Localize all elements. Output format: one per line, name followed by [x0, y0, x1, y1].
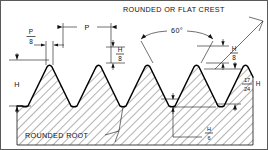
crest-note-label: ROUNDED OR FLAT CREST [123, 5, 225, 14]
seventeen-twentyfourths-suffix: H [256, 80, 261, 87]
height-eighth-numerator-right: H [232, 45, 237, 52]
height-eighth-denominator-right: 8 [232, 54, 236, 61]
seventeen-twentyfourths-denominator: 24 [244, 86, 250, 92]
pitch-eighth-denominator: 8 [29, 38, 33, 45]
height-eighth-numerator-mid: H [118, 46, 123, 53]
pitch-eighth-numerator: P [29, 28, 33, 35]
seventeen-twentyfourths-numerator: 17 [244, 77, 250, 83]
angle-label: 60° [171, 26, 183, 35]
thread-profile-figure: P 8 P H 8 H [0, 0, 268, 150]
height-eighth-denominator-mid: 8 [118, 55, 122, 62]
angle-annotation-60deg: 60° [141, 26, 213, 63]
height-sixth-denominator: 6 [207, 135, 210, 141]
height-left-label: H [14, 80, 20, 89]
dimension-height-eighth-right: H 8 [197, 39, 238, 70]
pitch-label: P [84, 23, 89, 32]
thread-profile-drawing: P 8 P H 8 H [1, 1, 268, 150]
height-sixth-numerator: H [207, 126, 211, 132]
root-note-label: ROUNDED ROOT [25, 131, 89, 140]
dimension-height-eighth-mid: H 8 [106, 40, 125, 70]
dimension-pitch: P [63, 23, 112, 64]
dimension-pitch-eighth: P 8 [27, 28, 65, 65]
